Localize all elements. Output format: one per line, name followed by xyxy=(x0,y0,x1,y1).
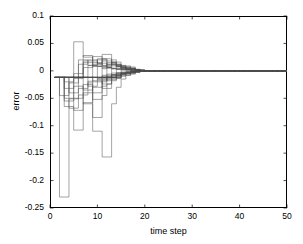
error-trace xyxy=(55,54,292,88)
error-trace xyxy=(55,69,292,77)
error-trace xyxy=(55,71,292,90)
error-trace xyxy=(55,63,292,78)
error-trace xyxy=(55,71,292,86)
error-trace xyxy=(55,59,292,78)
error-trace xyxy=(55,71,292,130)
error-trace xyxy=(55,61,292,77)
error-trace xyxy=(55,71,292,118)
x-tick-label: 20 xyxy=(130,212,160,221)
x-tick-label: 40 xyxy=(225,212,255,221)
x-axis-title: time step xyxy=(50,226,287,236)
error-trace xyxy=(55,71,292,78)
error-trace xyxy=(55,71,292,82)
y-tick-label: 0 xyxy=(2,66,44,75)
y-tick-label: 0.1 xyxy=(2,11,44,20)
error-trace xyxy=(55,71,292,78)
x-tick-label: 0 xyxy=(35,212,65,221)
error-trace xyxy=(55,71,292,157)
x-tick-label: 10 xyxy=(82,212,112,221)
y-axis-title: error xyxy=(11,71,21,131)
error-vs-timestep-figure: 0.10.050-0.05-0.1-0.15-0.2-0.25 01020304… xyxy=(0,0,303,244)
chart-canvas xyxy=(0,0,303,244)
error-traces xyxy=(55,42,292,197)
error-trace xyxy=(55,68,292,77)
y-tick-label: -0.1 xyxy=(2,121,44,130)
y-tick-label: -0.15 xyxy=(2,148,44,157)
error-trace xyxy=(55,67,292,77)
y-tick-label: -0.2 xyxy=(2,176,44,185)
y-tick-label: -0.25 xyxy=(2,203,44,212)
error-trace xyxy=(55,71,292,80)
error-trace xyxy=(55,42,292,82)
error-trace xyxy=(55,63,292,78)
error-trace xyxy=(55,71,292,98)
y-tick-label: 0.05 xyxy=(2,38,44,47)
tick-marks xyxy=(50,16,287,208)
x-tick-label: 30 xyxy=(177,212,207,221)
error-trace xyxy=(55,59,292,93)
error-trace xyxy=(55,71,292,78)
error-trace xyxy=(55,71,292,78)
x-tick-label: 50 xyxy=(272,212,302,221)
y-tick-label: -0.05 xyxy=(2,93,44,102)
